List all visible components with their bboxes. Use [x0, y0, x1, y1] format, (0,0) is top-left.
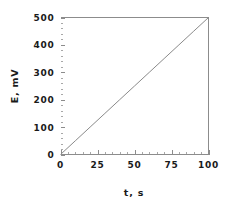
chart-figure: 0255075100 0100200300400500 t, s E, mV [0, 0, 233, 207]
y-axis-title: E, mV [9, 69, 20, 104]
y-tick-label: 300 [34, 68, 55, 78]
x-tick-label: 0 [57, 160, 64, 170]
x-tick-label: 25 [91, 160, 105, 170]
y-tick-label: 0 [48, 150, 55, 160]
x-tick-label: 75 [165, 160, 179, 170]
x-tick-label: 50 [128, 160, 142, 170]
line-chart: 0255075100 0100200300400500 t, s E, mV [0, 0, 233, 207]
y-tick-label: 400 [34, 40, 55, 50]
x-tick-label: 100 [198, 160, 219, 170]
y-tick-label: 200 [34, 95, 55, 105]
y-tick-label: 100 [34, 123, 55, 133]
x-axis-title: t, s [124, 187, 144, 198]
y-tick-label: 500 [34, 13, 55, 23]
